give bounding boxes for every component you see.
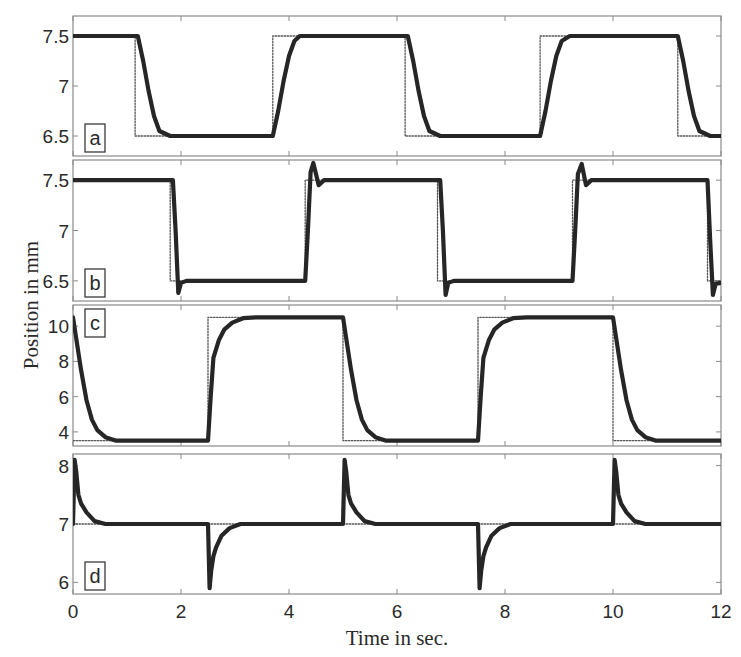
panel-d: 678d (58, 454, 721, 594)
x-tick-label: 10 (602, 601, 623, 622)
reference-line (73, 36, 721, 136)
x-tick-label: 0 (68, 601, 79, 622)
panel-tag-label: c (90, 312, 100, 334)
x-axis-ticks: 024681012 (68, 601, 732, 622)
panel-tag-d: d (85, 562, 105, 590)
panel-tag-b: b (85, 269, 105, 297)
y-tick-label: 8 (58, 351, 69, 372)
y-tick-label: 10 (48, 316, 69, 337)
x-tick-label: 4 (284, 601, 295, 622)
y-tick-label: 6.5 (43, 126, 69, 147)
panel-tag-label: a (89, 127, 101, 149)
x-tick-label: 6 (392, 601, 403, 622)
y-tick-label: 6.5 (43, 271, 69, 292)
panel-tag-label: b (89, 272, 100, 294)
panel-tag-a: a (85, 124, 105, 152)
x-tick-label: 12 (710, 601, 731, 622)
measured-line (73, 317, 721, 440)
x-axis-title: Time in sec. (346, 626, 448, 650)
y-tick-label: 6 (58, 572, 69, 593)
y-tick-label: 6 (58, 387, 69, 408)
panel-c: 46810c (48, 305, 721, 446)
x-tick-label: 8 (500, 601, 511, 622)
x-tick-label: 2 (176, 601, 187, 622)
panel-a: 6.577.5a (43, 16, 721, 156)
panel-tag-c: c (85, 309, 105, 337)
panels-group: 6.577.5a6.577.5b46810c678d (43, 16, 721, 594)
panel-b: 6.577.5b (43, 160, 721, 301)
y-tick-label: 7 (58, 221, 69, 242)
panel-tag-label: d (89, 565, 100, 587)
reference-line (73, 180, 721, 281)
y-tick-label: 7 (58, 76, 69, 97)
figure: 6.577.5a6.577.5b46810c678d 024681012 Tim… (0, 0, 741, 657)
y-tick-label: 4 (58, 422, 69, 443)
y-tick-label: 7.5 (43, 26, 69, 47)
y-tick-label: 7 (58, 514, 69, 535)
y-tick-label: 8 (58, 456, 69, 477)
y-axis-title: Position in mm (19, 241, 43, 369)
y-tick-label: 7.5 (43, 170, 69, 191)
measured-line (73, 36, 721, 136)
